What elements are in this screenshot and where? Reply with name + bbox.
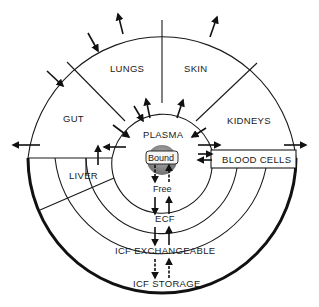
arrow-gut-plasma-in-icon: [113, 125, 129, 137]
label-ecf: ECF: [155, 213, 175, 224]
label-gut: GUT: [63, 113, 84, 124]
label-plasma: PLASMA: [143, 129, 184, 140]
arrow-lungs-plasma-in-icon: [134, 106, 143, 121]
label-blood-cells: BLOOD CELLS: [222, 154, 291, 165]
label-bound: Bound: [148, 153, 174, 163]
label-icf-storage: ICF STORAGE: [133, 278, 201, 289]
arrow-lungs-out-icon: [118, 14, 123, 34]
arrow-skin-out-icon: [210, 17, 217, 37]
arrow-lungs-plasma-out-icon: [146, 99, 150, 118]
label-icf-exchangeable: ICF EXCHANGEABLE: [115, 245, 215, 256]
label-free: Free: [153, 184, 172, 194]
label-liver: LIVER: [69, 170, 98, 181]
arrow-skin-plasma-out-icon: [177, 100, 183, 118]
fluid-compartment-diagram: LUNGS SKIN GUT KIDNEYS PLASMA Bound Free…: [0, 0, 319, 307]
arrow-gut-in-icon: [47, 71, 63, 86]
label-skin: SKIN: [184, 63, 207, 74]
label-kidneys: KIDNEYS: [227, 115, 271, 126]
label-lungs: LUNGS: [110, 63, 144, 74]
arrow-lungs-in-icon: [88, 33, 98, 51]
